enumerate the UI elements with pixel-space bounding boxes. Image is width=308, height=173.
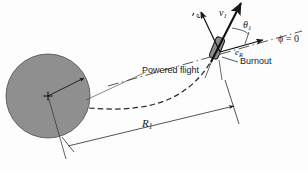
angle-tick-theta1 [245,32,249,44]
label-theta1: θ1 [243,20,251,32]
dimension-extension-line [225,80,239,124]
dimension-tick-inner [62,137,74,152]
label-v1: v1 [219,8,227,20]
label-e-r-symbol: e [235,48,239,57]
label-r1-symbol: R [142,117,149,129]
diagram-canvas [0,0,308,173]
label-phi-zero: ϕ = 0 [278,34,299,44]
label-burnout: Burnout [240,57,272,66]
burnout-leader-3 [219,60,222,80]
label-theta1-subscript: 1 [248,24,251,31]
powered-flight-leader [86,72,146,100]
label-powered-flight: Powered flight [142,66,199,75]
label-r1: R1 [142,118,152,131]
label-r1-subscript: 1 [149,122,153,131]
figure-container: eϕ v1 θ1 ϕ = 0 eR Burnout Powered flight… [0,0,308,173]
unit-vector-e-phi [201,12,220,52]
label-v1-subscript: 1 [223,12,226,19]
